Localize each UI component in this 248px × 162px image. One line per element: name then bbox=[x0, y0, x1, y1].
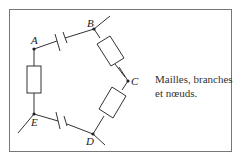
caption-line-1: Mailles, branches bbox=[155, 72, 233, 86]
caption-line-2: et nœuds. bbox=[155, 86, 233, 100]
node-label-c: C bbox=[131, 75, 139, 87]
node-label-e: E bbox=[30, 116, 38, 128]
node-label-b: B bbox=[87, 17, 94, 29]
stub-b bbox=[94, 16, 110, 29]
node-label-d: D bbox=[85, 135, 94, 147]
branch-d-e-capacitor bbox=[34, 112, 93, 134]
branch-a-b-capacitor bbox=[34, 29, 94, 51]
node-label-a: A bbox=[30, 34, 38, 46]
stub-d bbox=[93, 134, 105, 145]
branch-b-c-resistor bbox=[94, 29, 128, 81]
branch-c-d-resistor bbox=[93, 81, 128, 134]
diagram-caption: Mailles, branches et nœuds. bbox=[155, 72, 233, 100]
branch-e-a-resistor bbox=[27, 49, 41, 114]
